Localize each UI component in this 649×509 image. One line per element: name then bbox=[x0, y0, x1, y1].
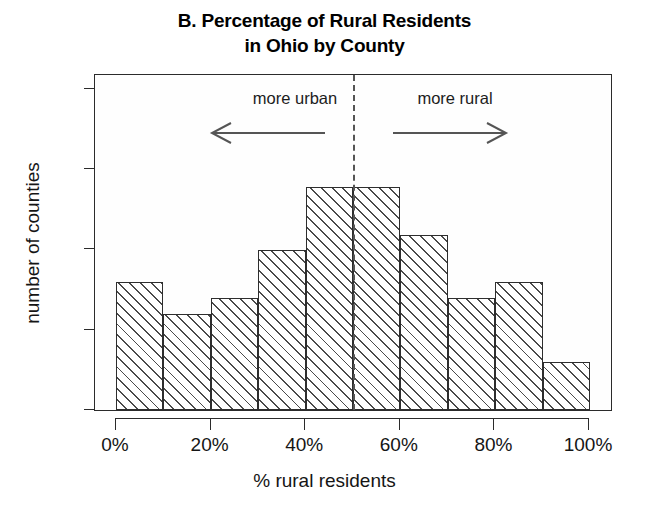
x-tickmark-100 bbox=[588, 418, 589, 430]
x-ticklabel-60: 60% bbox=[354, 434, 444, 456]
x-ticklabel-40: 40% bbox=[259, 434, 349, 456]
x-tickmark-80 bbox=[493, 418, 494, 430]
y-tickmark-5 bbox=[84, 329, 94, 330]
bar-90-100 bbox=[543, 362, 590, 410]
x-axis-rule bbox=[115, 418, 588, 419]
x-ticklabel-0: 0% bbox=[70, 434, 160, 456]
y-tickmark-20 bbox=[84, 88, 94, 89]
y-tickmark-0 bbox=[84, 409, 94, 410]
bar-30-40 bbox=[258, 250, 305, 410]
page-title-line-2: in Ohio by County bbox=[0, 33, 649, 58]
x-tickmark-0 bbox=[115, 418, 116, 430]
x-ticklabel-100: 100% bbox=[543, 434, 633, 456]
x-tickmark-40 bbox=[304, 418, 305, 430]
midpoint-dashed-line bbox=[353, 75, 355, 410]
plot-area: more urban more rural bbox=[94, 74, 612, 411]
y-tickmark-15 bbox=[84, 168, 94, 169]
bar-10-20 bbox=[163, 314, 210, 410]
bar-70-80 bbox=[448, 298, 495, 410]
x-tickmark-60 bbox=[399, 418, 400, 430]
page-title-line-1: B. Percentage of Rural Residents bbox=[0, 8, 649, 33]
annotation-more-rural-arrow-icon bbox=[391, 121, 511, 145]
x-tickmark-20 bbox=[210, 418, 211, 430]
bar-0-10 bbox=[116, 282, 163, 410]
bar-20-30 bbox=[211, 298, 258, 410]
y-axis-title: number of counties bbox=[22, 113, 44, 373]
bar-80-90 bbox=[495, 282, 542, 410]
y-tickmark-10 bbox=[84, 248, 94, 249]
bar-50-60 bbox=[353, 187, 400, 410]
page-title: B. Percentage of Rural Residents in Ohio… bbox=[0, 8, 649, 58]
x-ticklabel-80: 80% bbox=[448, 434, 538, 456]
bar-60-70 bbox=[400, 235, 447, 410]
annotation-more-urban-label: more urban bbox=[235, 89, 355, 108]
annotation-more-urban-arrow-icon bbox=[207, 121, 327, 145]
x-ticklabel-20: 20% bbox=[165, 434, 255, 456]
annotation-more-rural-label: more rural bbox=[395, 89, 515, 108]
bar-40-50 bbox=[306, 187, 353, 410]
x-axis-title: % rural residents bbox=[0, 470, 649, 492]
